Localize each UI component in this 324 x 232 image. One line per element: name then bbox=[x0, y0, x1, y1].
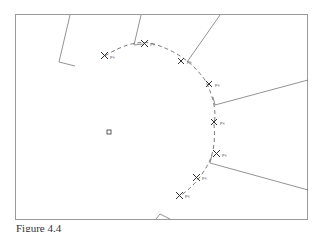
svg-text:pₖ: pₖ bbox=[222, 152, 227, 157]
arc-path bbox=[105, 43, 215, 196]
svg-text:pₖ: pₖ bbox=[187, 59, 192, 64]
svg-text:pₖ: pₖ bbox=[215, 82, 220, 87]
voronoi-edges bbox=[59, 15, 308, 219]
svg-text:pₖ: pₖ bbox=[220, 120, 225, 125]
figure-caption: Figure 4.4 bbox=[16, 222, 61, 232]
svg-text:pₖ: pₖ bbox=[110, 54, 115, 59]
svg-text:pₖ: pₖ bbox=[202, 175, 207, 180]
svg-text:pₖ: pₖ bbox=[150, 41, 155, 46]
voronoi-diagram: pₖ pₖ pₖ pₖ pₖ pₖ pₖ pₖ bbox=[0, 0, 324, 232]
center-marker-icon bbox=[107, 130, 111, 134]
svg-text:pₖ: pₖ bbox=[185, 193, 190, 198]
point-labels: pₖ pₖ pₖ pₖ pₖ pₖ pₖ pₖ bbox=[110, 41, 227, 198]
